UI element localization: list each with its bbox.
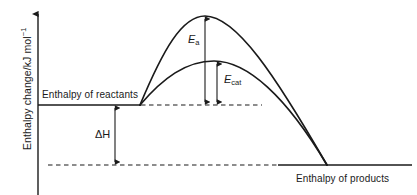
enthalpy-profile-figure: Enthalpy change/kJ mol−1 Enthalpy of rea…: [0, 0, 417, 195]
reactants-level-label: Enthalpy of reactants: [42, 90, 138, 100]
y-axis-label-text: Enthalpy change/kJ mol: [21, 36, 33, 150]
catalysed-activation-energy-subscript: cat: [231, 78, 241, 87]
activation-energy-subscript: a: [195, 38, 199, 47]
enthalpy-change-label: ΔH: [95, 129, 110, 140]
uncatalysed-pathway-curve: [140, 16, 327, 165]
y-axis-label: Enthalpy change/kJ mol−1: [20, 28, 32, 150]
catalysed-activation-energy-label: Ecat: [224, 74, 241, 85]
products-level-label: Enthalpy of products: [296, 174, 389, 184]
activation-energy-label: Ea: [188, 34, 200, 45]
y-axis-label-superscript: −1: [19, 28, 28, 37]
